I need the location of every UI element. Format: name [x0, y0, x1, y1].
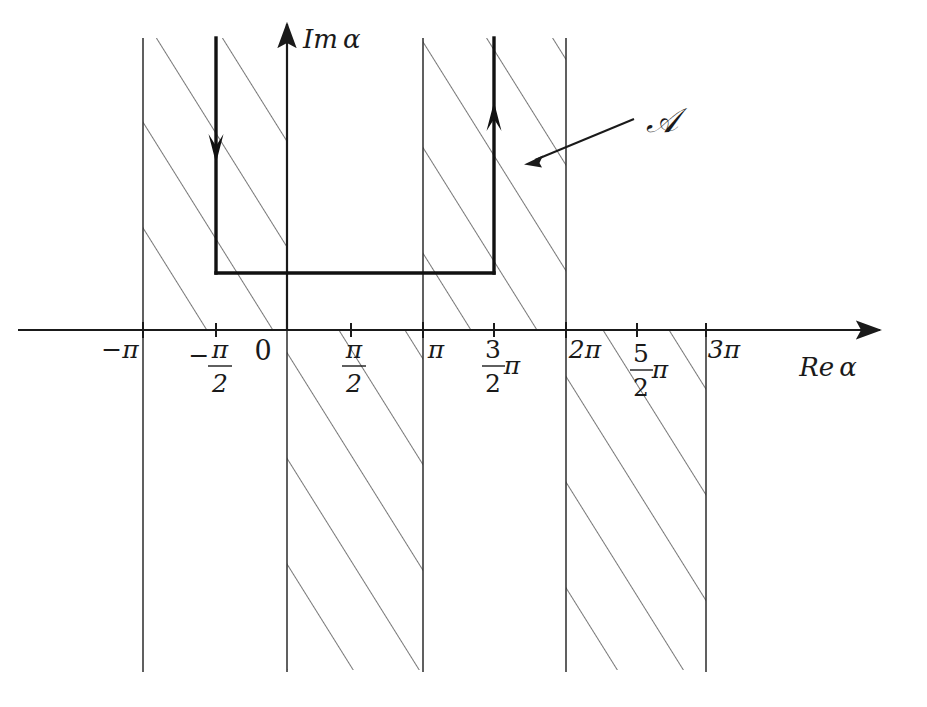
neg-half-pi-numerator: π: [211, 335, 229, 364]
three-half-pi-suffix: π: [503, 351, 521, 380]
tick-label-neg-pi: −π: [101, 335, 139, 364]
real-axis-label: Re α: [798, 352, 857, 382]
half-pi-numerator: π: [345, 335, 363, 364]
neg-half-pi-denominator: 2: [211, 369, 228, 398]
tick-label-neg-half-pi: − π 2: [189, 335, 232, 398]
five-half-pi-numerator: 5: [633, 339, 649, 368]
three-half-pi-denominator: 2: [485, 369, 501, 398]
tick-label-pi: π: [427, 335, 445, 364]
five-half-pi-suffix: π: [651, 355, 669, 384]
tick-label-three-pi: 3π: [708, 335, 741, 364]
region-label-A: 𝒜: [646, 100, 688, 140]
figure-canvas: 𝒜 Im α Re α −π − π 2 0 π 2 π 3 2 π 2π 5 …: [0, 0, 927, 707]
tick-label-zero: 0: [254, 335, 271, 366]
imaginary-axis-label: Im α: [302, 24, 361, 54]
tick-label-two-pi: 2π: [568, 335, 602, 364]
half-pi-denominator: 2: [345, 369, 362, 398]
five-half-pi-denominator: 2: [633, 373, 649, 402]
neg-half-pi-sign: −: [189, 341, 210, 370]
complex-plane-figure: 𝒜 Im α Re α −π − π 2 0 π 2 π 3 2 π 2π 5 …: [0, 0, 927, 707]
three-half-pi-numerator: 3: [485, 335, 501, 364]
tick-label-three-half-pi: 3 2 π: [482, 335, 521, 398]
